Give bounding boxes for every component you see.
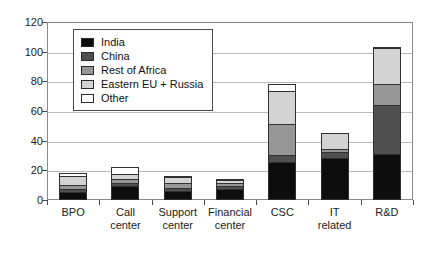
legend-label: China xyxy=(101,51,130,62)
bar-segment xyxy=(374,106,400,155)
bar-stack[interactable] xyxy=(164,176,192,200)
bar-stack[interactable] xyxy=(321,133,349,200)
bar-group xyxy=(308,22,360,200)
x-tick-mark xyxy=(361,200,362,205)
bar-segment xyxy=(374,85,400,106)
legend-label: Eastern EU + Russia xyxy=(101,79,203,90)
y-tick-label: 40 xyxy=(9,135,43,146)
stacked-bar-chart: 120 100 80 60 40 20 0 BPOCallcenterSuppo… xyxy=(0,0,428,261)
x-tick-mark xyxy=(413,200,414,205)
x-axis-label-line: related xyxy=(295,219,375,232)
bar-segment xyxy=(112,168,138,175)
legend-label: Rest of Africa xyxy=(101,65,166,76)
legend-item[interactable]: Eastern EU + Russia xyxy=(81,77,203,91)
x-tick-mark xyxy=(308,200,309,205)
y-tick-label: 0 xyxy=(9,195,43,206)
bar-stack[interactable] xyxy=(216,179,244,200)
bar-segment xyxy=(269,156,295,163)
bar-segment xyxy=(217,190,243,199)
bar-segment xyxy=(269,92,295,125)
bar-stack[interactable] xyxy=(268,84,296,200)
legend-label: India xyxy=(101,37,125,48)
y-tick-label: 60 xyxy=(9,106,43,117)
legend-swatch-icon xyxy=(81,80,94,89)
x-tick-mark xyxy=(99,200,100,205)
y-tick-label: 20 xyxy=(9,165,43,176)
bar-stack[interactable] xyxy=(111,167,139,200)
bar-segment xyxy=(112,187,138,199)
legend-item[interactable]: Other xyxy=(81,91,203,105)
bar-segment xyxy=(60,193,86,199)
x-tick-mark xyxy=(256,200,257,205)
legend-swatch-icon xyxy=(81,52,94,61)
legend-swatch-icon xyxy=(81,94,94,103)
x-tick-mark xyxy=(152,200,153,205)
chart-legend: IndiaChinaRest of AfricaEastern EU + Rus… xyxy=(73,29,213,111)
legend-item[interactable]: India xyxy=(81,35,203,49)
x-axis-label-line: R&D xyxy=(347,206,427,219)
bar-stack[interactable] xyxy=(373,47,401,200)
legend-item[interactable]: Rest of Africa xyxy=(81,63,203,77)
legend-item[interactable]: China xyxy=(81,49,203,63)
legend-swatch-icon xyxy=(81,66,94,75)
bar-group xyxy=(256,22,308,200)
bar-segment xyxy=(269,85,295,92)
bar-segment xyxy=(269,125,295,156)
x-tick-mark xyxy=(204,200,205,205)
bar-segment xyxy=(374,49,400,85)
y-tick-label: 120 xyxy=(9,17,43,28)
bar-segment xyxy=(322,134,348,150)
bar-stack[interactable] xyxy=(59,173,87,200)
x-axis-label: R&D xyxy=(347,206,427,219)
y-tick-label: 80 xyxy=(9,76,43,87)
x-axis-label-line: center xyxy=(190,219,270,232)
legend-label: Other xyxy=(101,93,129,104)
bar-segment xyxy=(165,192,191,199)
bar-segment xyxy=(322,159,348,199)
bar-segment xyxy=(60,177,86,186)
x-tick-mark xyxy=(47,200,48,205)
bar-segment xyxy=(374,155,400,200)
y-tick-label: 100 xyxy=(9,46,43,57)
bar-group xyxy=(361,22,413,200)
bar-segment xyxy=(269,163,295,199)
legend-swatch-icon xyxy=(81,38,94,47)
